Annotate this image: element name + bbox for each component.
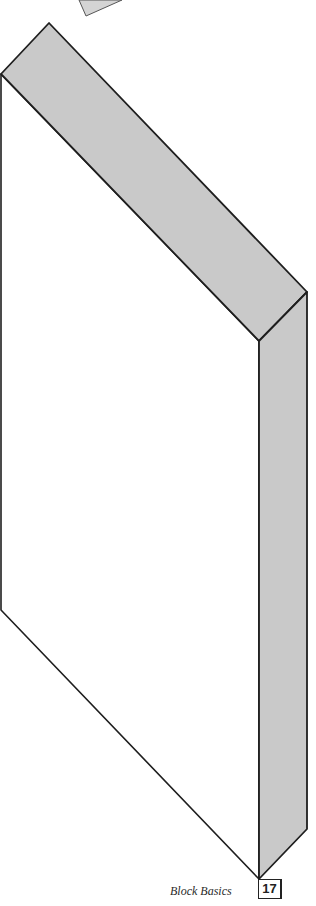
block-side-face: [259, 292, 307, 879]
block-illustration: [0, 0, 316, 906]
page-number: 17: [258, 879, 282, 899]
page-caption: Block Basics: [170, 884, 232, 899]
partial-shape-top: [79, 0, 122, 16]
